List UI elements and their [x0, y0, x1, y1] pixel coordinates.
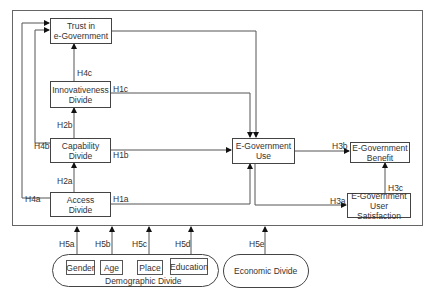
node-label: Benefit: [367, 153, 393, 163]
demographic-item-place: Place: [137, 260, 163, 275]
hypothesis-label-h3a: H3a: [330, 196, 346, 206]
hypothesis-label-h5d: H5d: [175, 239, 191, 249]
hypothesis-label-h5a: H5a: [59, 239, 75, 249]
demographic-item-gender: Gender: [66, 260, 95, 275]
node-egovernment-use: E-Government Use: [232, 138, 295, 164]
node-label: Use: [256, 151, 271, 161]
node-innovativeness-divide: Innovativeness Divide: [50, 81, 111, 108]
hypothesis-label-h1b: H1b: [113, 150, 129, 160]
node-label: Trust in: [67, 21, 95, 31]
economic-divide-label: Economic Divide: [234, 266, 297, 276]
node-label: E-Government: [352, 143, 407, 153]
hypothesis-label-h2b: H2b: [57, 120, 73, 130]
hypothesis-label-h5e: H5e: [249, 239, 265, 249]
hypothesis-label-h4a: H4a: [25, 194, 41, 204]
node-label: Access: [67, 195, 94, 205]
node-label: Divide: [69, 95, 93, 105]
node-label: User Satisfaction: [348, 201, 410, 221]
hypothesis-label-h3b: H3b: [332, 141, 348, 151]
node-label: E-Government: [236, 141, 291, 151]
hypothesis-label-h5c: H5c: [132, 239, 147, 249]
node-label: Divide: [69, 151, 93, 161]
node-label: e-Government: [54, 31, 108, 41]
hypothesis-label-h1c: H1c: [113, 84, 128, 94]
hypothesis-label-h5b: H5b: [95, 239, 111, 249]
hypothesis-label-h4c: H4c: [77, 68, 92, 78]
node-label: Innovativeness: [52, 85, 109, 95]
node-label: Divide: [69, 205, 93, 215]
node-label: Capability: [62, 141, 99, 151]
demographic-divide-label: Demographic Divide: [105, 276, 182, 286]
hypothesis-label-h2a: H2a: [57, 176, 73, 186]
demographic-item-age: Age: [100, 260, 123, 275]
demographic-item-education: Education: [170, 258, 208, 275]
node-capability-divide: Capability Divide: [50, 138, 111, 163]
hypothesis-label-h1a: H1a: [113, 194, 129, 204]
node-egovernment-benefit: E-Government Benefit: [350, 142, 410, 163]
node-trust-in-egovernment: Trust in e-Government: [50, 18, 112, 44]
hypothesis-label-h4b: H4b: [34, 141, 50, 151]
hypothesis-label-h3c: H3c: [388, 183, 403, 193]
node-access-divide: Access Divide: [50, 192, 111, 217]
node-egovernment-user-satisfaction: E-Government User Satisfaction: [347, 193, 411, 218]
